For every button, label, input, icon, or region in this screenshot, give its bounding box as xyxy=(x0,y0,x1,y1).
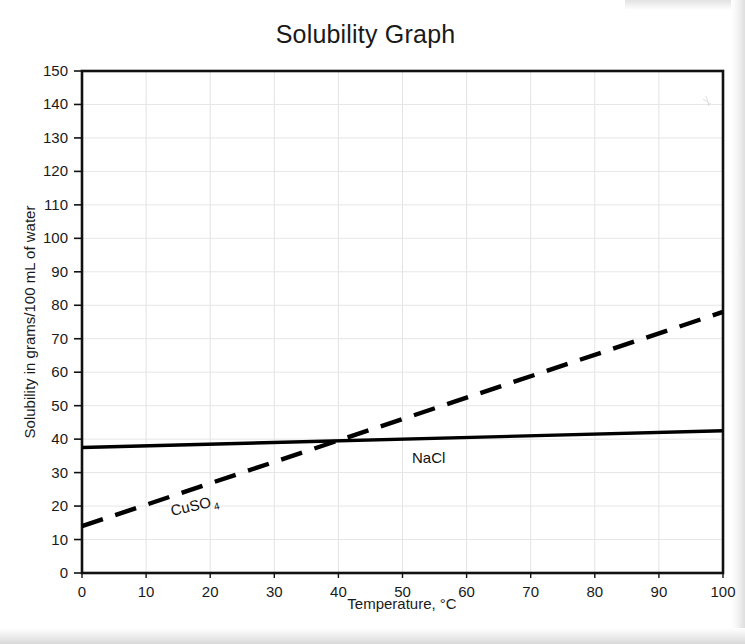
y-tick-label: 60 xyxy=(51,363,68,380)
x-tick-label: 10 xyxy=(138,583,155,600)
y-tick-label: 0 xyxy=(60,564,68,581)
y-tick-label: 90 xyxy=(51,263,68,280)
y-tick-label: 150 xyxy=(43,62,68,79)
y-tick-label: 100 xyxy=(43,229,68,246)
x-tick-label: 90 xyxy=(651,583,668,600)
y-axis-title: Solubility in grams/100 mL of water xyxy=(21,206,38,439)
series-label-nacl: NaCl xyxy=(412,449,445,466)
x-axis-title: Temperature, °C xyxy=(347,595,457,612)
y-tick-label: 120 xyxy=(43,162,68,179)
y-axis-tick-labels: 0102030405060708090100110120130140150 xyxy=(43,62,68,581)
y-tick-label: 20 xyxy=(51,497,68,514)
x-tick-label: 0 xyxy=(78,583,86,600)
y-tick-label: 30 xyxy=(51,464,68,481)
y-tick-label: 130 xyxy=(43,129,68,146)
solubility-chart: 0102030405060708090100110120130140150 01… xyxy=(0,0,745,644)
y-tick-label: 140 xyxy=(43,95,68,112)
x-tick-label: 20 xyxy=(202,583,219,600)
x-tick-label: 70 xyxy=(522,583,539,600)
y-tick-label: 50 xyxy=(51,397,68,414)
x-tick-label: 100 xyxy=(710,583,735,600)
x-tick-label: 80 xyxy=(586,583,603,600)
x-tick-label: 40 xyxy=(330,583,347,600)
y-tick-label: 80 xyxy=(51,296,68,313)
y-tick-label: 110 xyxy=(44,196,68,213)
y-tick-label: 70 xyxy=(51,330,68,347)
y-tick-label: 40 xyxy=(51,430,68,447)
y-tick-label: 10 xyxy=(51,531,68,548)
x-tick-label: 30 xyxy=(266,583,283,600)
x-tick-label: 60 xyxy=(458,583,475,600)
